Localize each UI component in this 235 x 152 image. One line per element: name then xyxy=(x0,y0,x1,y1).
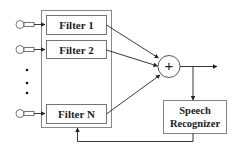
filter-1-label: Filter 1 xyxy=(59,19,93,31)
plus-icon: + xyxy=(165,57,174,74)
microphone-icon xyxy=(16,21,45,29)
filter-1-connector xyxy=(107,25,159,58)
filter-2-label: Filter 2 xyxy=(59,44,94,56)
microphone-icon xyxy=(16,46,45,54)
filter-n-label: Filter N xyxy=(58,108,95,120)
microphone-icon xyxy=(16,110,45,118)
recognizer-label: Recognizer xyxy=(170,118,220,129)
vertical-dots-icon xyxy=(26,69,29,95)
filter-2-box: Filter 2 xyxy=(47,41,107,59)
speech-recognizer-box: Speech Recognizer xyxy=(164,101,227,134)
filter-bank-diagram: Filter 1 Filter 2 Filter N + Speech Reco… xyxy=(0,0,235,152)
filter-1-box: Filter 1 xyxy=(47,16,107,35)
summing-junction: + xyxy=(158,56,180,78)
filter-n-box: Filter N xyxy=(47,105,107,124)
speech-label: Speech xyxy=(179,105,211,116)
filter-n-connector xyxy=(107,75,161,114)
